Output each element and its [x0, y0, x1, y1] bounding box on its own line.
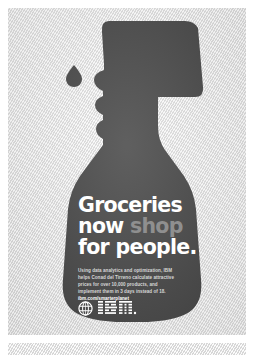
headline: Groceries now shop for people.	[78, 195, 200, 258]
headline-line-1: Groceries	[78, 195, 200, 216]
headline-line-2: now shop	[78, 216, 200, 237]
advertisement-root: Groceries now shop for people. Using dat…	[0, 0, 254, 355]
poster-panel: Groceries now shop for people. Using dat…	[8, 8, 246, 335]
body-copy-line-3: prices for over 10,000 products, and	[78, 281, 200, 288]
body-copy-line-2: helps Conad del Tirreno calculate attrac…	[78, 274, 200, 281]
smarter-planet-globe-icon	[78, 301, 93, 316]
ibm-wordmark	[98, 300, 146, 316]
body-copy-line-1: Using data analytics and optimization, I…	[78, 267, 200, 274]
bottom-panel-edge	[8, 343, 246, 355]
ad-copy-block: Groceries now shop for people. Using dat…	[78, 195, 200, 302]
water-drop-icon	[66, 65, 82, 87]
ibm-logo-lockup: IBM	[78, 300, 146, 316]
headline-line-3: for people.	[78, 237, 200, 258]
body-copy: Using data analytics and optimization, I…	[78, 267, 200, 303]
body-copy-line-4: implement them in 3 days instead of 18.	[78, 288, 200, 295]
